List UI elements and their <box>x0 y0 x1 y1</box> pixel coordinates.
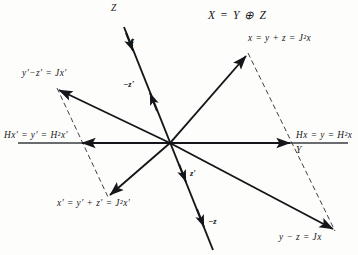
z-prime-arrowhead-marker <box>179 164 186 182</box>
z-axis-label: Z <box>111 4 117 14</box>
label-axis-left: Hx′ = y′ = H²x′ <box>4 131 68 140</box>
minus-z-prime-arrowhead-marker <box>150 93 157 111</box>
vector-x-sum <box>170 56 246 143</box>
y-axis-label: Y <box>296 146 302 156</box>
label-minus-z-prime: −z′ <box>123 81 135 89</box>
label-vector-y-minus-z: y − z = Jx <box>279 233 322 242</box>
minus-z-arrowhead-marker <box>197 209 204 227</box>
label-z: z <box>131 37 135 45</box>
label-vector-x-prime-sum: x′ = y′ + z′ = J²x′ <box>57 199 130 208</box>
label-z-prime: z′ <box>190 170 196 178</box>
label-vector-y-prime-minus-z-prime: y′−z′ = Jx′ <box>22 69 67 78</box>
label-axis-right: Hx = y = H²x <box>296 131 352 140</box>
label-minus-z: −z <box>208 218 217 226</box>
vector-diagram-figure: X = Y ⊕ Z Z Y x = y + z = J²x y − z = Jx… <box>0 0 358 255</box>
vector-y-minus-z <box>170 143 333 229</box>
vector-x-prime-sum <box>110 143 170 195</box>
vector-y-prime-minus-z-prime <box>59 90 170 143</box>
label-vector-x-sum: x = y + z = J²x <box>248 34 311 43</box>
dashed-construction-right <box>248 53 335 231</box>
diagram-title: X = Y ⊕ Z <box>208 10 267 22</box>
